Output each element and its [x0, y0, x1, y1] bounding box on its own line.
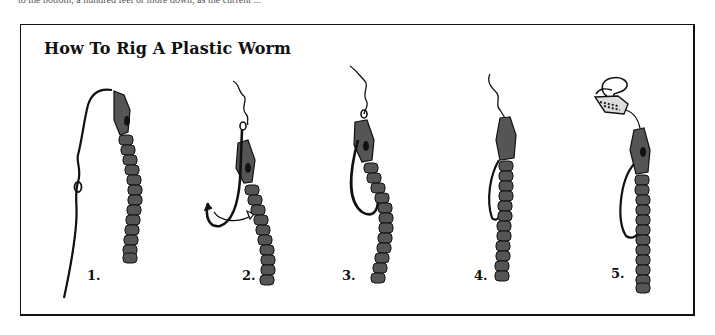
worm-eye — [640, 147, 646, 157]
worm-head — [496, 117, 516, 160]
hook-icon — [207, 130, 242, 226]
step-5-illustration — [595, 78, 650, 293]
step-label-1: 1. — [87, 268, 101, 283]
worm-body — [495, 161, 513, 281]
worm-head — [630, 128, 650, 174]
worm-eye — [363, 141, 369, 151]
step-3-illustration — [350, 66, 393, 283]
worm-rigging-illustration — [0, 0, 715, 335]
hook-icon — [489, 160, 500, 220]
step-label-4: 4. — [474, 268, 488, 283]
step-label-2: 2. — [242, 268, 256, 283]
step-1-illustration — [64, 90, 142, 298]
worm-body — [364, 163, 393, 283]
worm-body — [635, 175, 650, 293]
step-4-illustration — [489, 74, 516, 281]
worm-eye — [245, 163, 251, 173]
worm-eye — [124, 116, 130, 126]
worm-body — [119, 135, 142, 263]
step-2-illustration — [205, 81, 275, 285]
step-label-3: 3. — [342, 268, 356, 283]
slip-sinker-icon — [595, 96, 628, 114]
worm-head — [114, 91, 130, 135]
step-label-5: 5. — [611, 266, 625, 281]
hook-eye-icon — [240, 122, 246, 130]
